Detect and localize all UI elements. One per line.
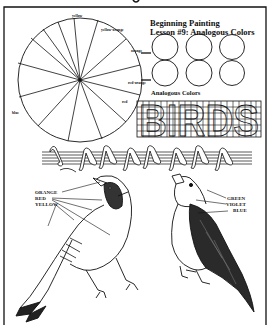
wheel-label-red-orange: red-orange [128, 81, 146, 85]
label-violet: VIOLET [226, 202, 246, 207]
music-staff [42, 146, 252, 171]
label-yellow: YELLOW [35, 202, 58, 207]
birds-outline-word: BIRDS [139, 95, 259, 146]
wheel-label-yellow-orange: yellow-orange [101, 28, 124, 32]
worksheet-artwork: yellow yellow-orange orange red-orange r… [0, 0, 271, 325]
wheel-label-yellow: yellow [72, 14, 83, 18]
label-green: GREEN [227, 196, 245, 201]
label-orange: ORANGE [35, 190, 58, 195]
color-wheel [18, 18, 142, 142]
wheel-label-blue: blue [12, 111, 19, 115]
wheel-label-orange: orange [131, 49, 142, 53]
right-bird-drawing [172, 174, 254, 312]
label-red: RED [35, 196, 46, 201]
analogous-circles [152, 34, 245, 86]
label-blue: BLUE [233, 208, 247, 213]
wheel-label-red: red [122, 100, 128, 104]
worksheet-lesson: Lesson #9: Analogous Colors [150, 28, 255, 37]
analogous-caption: Analogous Colors [151, 90, 200, 97]
heading-fragment [133, 0, 139, 2]
birds-letter-grid: BIRDS [137, 95, 261, 146]
worksheet-page: yellow yellow-orange orange red-orange r… [0, 0, 271, 325]
